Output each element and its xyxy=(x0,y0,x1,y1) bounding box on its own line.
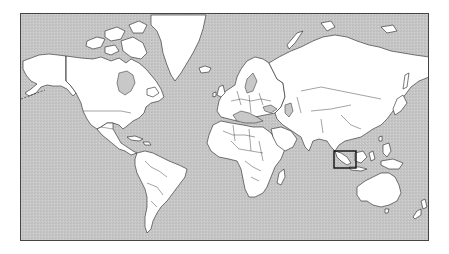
tasmania xyxy=(385,209,389,213)
world-map xyxy=(20,13,429,241)
map-canvas xyxy=(21,14,429,241)
